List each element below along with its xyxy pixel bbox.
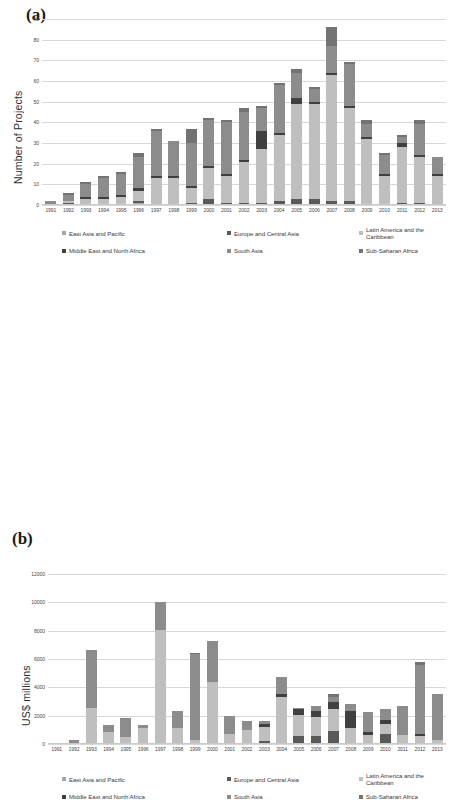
panel-b-bar-segment[interactable] xyxy=(120,718,131,736)
panel-a-stacked-bar[interactable] xyxy=(309,87,320,205)
panel-a-bar-column[interactable] xyxy=(341,19,359,205)
panel-a-bar-segment[interactable] xyxy=(344,64,355,105)
panel-a-bar-segment[interactable] xyxy=(203,168,214,199)
panel-b-bar-column[interactable] xyxy=(83,574,100,744)
panel-b-stacked-bar[interactable] xyxy=(190,653,201,744)
panel-b-bar-column[interactable] xyxy=(342,574,359,744)
panel-b-stacked-bar[interactable] xyxy=(86,650,97,744)
panel-a-bar-segment[interactable] xyxy=(361,139,372,205)
panel-a-bar-segment[interactable] xyxy=(256,149,267,203)
panel-a-stacked-bar[interactable] xyxy=(239,108,250,205)
panel-a-stacked-bar[interactable] xyxy=(221,120,232,205)
panel-a-bar-segment[interactable] xyxy=(98,178,109,197)
panel-a-bar-column[interactable] xyxy=(112,19,130,205)
panel-b-bar-segment[interactable] xyxy=(345,728,356,744)
panel-a-stacked-bar[interactable] xyxy=(432,157,443,205)
panel-b-bar-segment[interactable] xyxy=(328,702,339,709)
panel-a-stacked-bar[interactable] xyxy=(80,182,91,205)
panel-a-bar-segment[interactable] xyxy=(361,124,372,136)
panel-b-legend-item[interactable]: Middle East and North Africa xyxy=(62,793,227,800)
panel-a-bar-column[interactable] xyxy=(42,19,60,205)
panel-b-bar-column[interactable] xyxy=(359,574,376,744)
panel-b-stacked-bar[interactable] xyxy=(363,712,374,744)
panel-b-bar-segment[interactable] xyxy=(207,682,218,744)
panel-a-bar-column[interactable] xyxy=(270,19,288,205)
panel-b-bar-segment[interactable] xyxy=(190,654,201,740)
panel-b-bar-segment[interactable] xyxy=(345,704,356,711)
panel-b-bar-segment[interactable] xyxy=(172,728,183,744)
panel-a-bar-segment[interactable] xyxy=(168,141,179,176)
panel-b-legend-item[interactable]: Latin America and the Caribbean xyxy=(359,772,446,786)
panel-b-stacked-bar[interactable] xyxy=(103,725,114,744)
panel-a-stacked-bar[interactable] xyxy=(168,141,179,205)
panel-b-stacked-bar[interactable] xyxy=(380,709,391,744)
panel-b-legend-item[interactable]: Europe and Central Asia xyxy=(227,772,359,786)
panel-b-bar-segment[interactable] xyxy=(293,715,304,736)
panel-b-bar-segment[interactable] xyxy=(86,650,97,708)
panel-b-bar-column[interactable] xyxy=(134,574,151,744)
panel-a-stacked-bar[interactable] xyxy=(133,153,144,205)
panel-b-bar-segment[interactable] xyxy=(224,716,235,734)
panel-b-bar-column[interactable] xyxy=(238,574,255,744)
panel-b-bar-segment[interactable] xyxy=(345,711,356,728)
panel-a-bar-column[interactable] xyxy=(165,19,183,205)
panel-b-bar-segment[interactable] xyxy=(259,727,270,741)
panel-b-bar-segment[interactable] xyxy=(415,665,426,734)
panel-a-bar-column[interactable] xyxy=(235,19,253,205)
panel-a-stacked-bar[interactable] xyxy=(361,120,372,205)
panel-a-bar-column[interactable] xyxy=(77,19,95,205)
panel-b-stacked-bar[interactable] xyxy=(224,716,235,744)
panel-a-stacked-bar[interactable] xyxy=(116,172,127,205)
panel-a-stacked-bar[interactable] xyxy=(414,120,425,205)
panel-b-legend-item[interactable]: East Asia and Pacific xyxy=(62,772,227,786)
panel-a-bar-column[interactable] xyxy=(147,19,165,205)
panel-b-bar-column[interactable] xyxy=(169,574,186,744)
panel-a-stacked-bar[interactable] xyxy=(274,83,285,205)
panel-a-stacked-bar[interactable] xyxy=(291,69,302,205)
panel-b-stacked-bar[interactable] xyxy=(328,694,339,744)
panel-a-bar-column[interactable] xyxy=(358,19,376,205)
panel-a-bar-segment[interactable] xyxy=(186,188,197,202)
panel-a-bar-segment[interactable] xyxy=(203,120,214,165)
panel-b-stacked-bar[interactable] xyxy=(415,662,426,744)
panel-b-bar-segment[interactable] xyxy=(380,709,391,720)
panel-a-stacked-bar[interactable] xyxy=(256,106,267,205)
panel-b-bar-segment[interactable] xyxy=(172,711,183,729)
panel-a-bar-segment[interactable] xyxy=(151,131,162,176)
panel-a-bar-segment[interactable] xyxy=(432,176,443,205)
panel-b-stacked-bar[interactable] xyxy=(172,711,183,744)
panel-a-legend-item[interactable]: South Asia xyxy=(227,247,359,254)
panel-a-legend-item[interactable]: Sub-Saharan Africa xyxy=(359,247,446,254)
panel-a-bar-column[interactable] xyxy=(288,19,306,205)
panel-a-bar-segment[interactable] xyxy=(239,112,250,160)
panel-a-bar-segment[interactable] xyxy=(397,147,408,203)
panel-a-legend-item[interactable]: Europe and Central Asia xyxy=(227,226,359,240)
panel-a-stacked-bar[interactable] xyxy=(151,129,162,205)
panel-b-bar-segment[interactable] xyxy=(207,641,218,682)
panel-b-bar-column[interactable] xyxy=(429,574,446,744)
panel-b-bar-column[interactable] xyxy=(65,574,82,744)
panel-a-bar-segment[interactable] xyxy=(291,104,302,199)
panel-b-bar-column[interactable] xyxy=(221,574,238,744)
panel-a-bar-segment[interactable] xyxy=(414,157,425,202)
panel-b-stacked-bar[interactable] xyxy=(311,706,322,744)
panel-b-bar-segment[interactable] xyxy=(242,721,253,730)
panel-b-bar-segment[interactable] xyxy=(276,697,287,744)
panel-a-stacked-bar[interactable] xyxy=(379,153,390,205)
panel-a-legend-item[interactable]: Middle East and North Africa xyxy=(62,247,227,254)
panel-b-bar-column[interactable] xyxy=(117,574,134,744)
panel-b-stacked-bar[interactable] xyxy=(138,725,149,744)
panel-b-bar-column[interactable] xyxy=(100,574,117,744)
panel-a-bar-column[interactable] xyxy=(428,19,446,205)
panel-a-stacked-bar[interactable] xyxy=(397,135,408,205)
panel-a-bar-column[interactable] xyxy=(200,19,218,205)
panel-a-bar-column[interactable] xyxy=(253,19,271,205)
panel-a-stacked-bar[interactable] xyxy=(98,176,109,205)
panel-b-stacked-bar[interactable] xyxy=(345,704,356,744)
panel-b-stacked-bar[interactable] xyxy=(276,677,287,744)
panel-b-bar-segment[interactable] xyxy=(103,725,114,732)
panel-b-legend-item[interactable]: Sub-Saharan Africa xyxy=(359,793,446,800)
panel-a-bar-segment[interactable] xyxy=(379,176,390,205)
panel-a-bar-column[interactable] xyxy=(411,19,429,205)
panel-a-bar-column[interactable] xyxy=(218,19,236,205)
